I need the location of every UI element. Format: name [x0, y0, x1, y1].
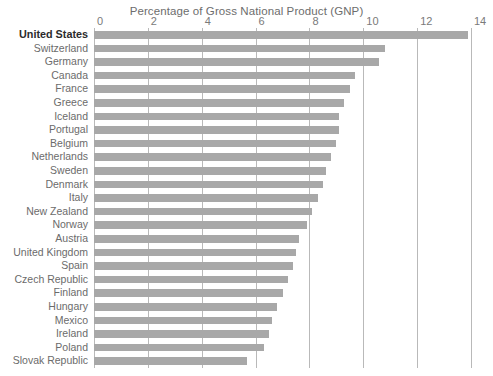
bar-france — [94, 85, 350, 93]
x-tick-label: 4 — [205, 16, 211, 27]
bar-row: Slovak Republic — [0, 354, 493, 368]
bar-row: Greece — [0, 96, 493, 110]
category-label-portugal: Portugal — [0, 123, 88, 137]
bar-poland — [94, 344, 264, 352]
bar-iceland — [94, 113, 339, 121]
bar-row: Belgium — [0, 137, 493, 151]
bar-new-zealand — [94, 208, 312, 216]
bar-row: Denmark — [0, 178, 493, 192]
bar-canada — [94, 72, 355, 80]
x-tick-label: 6 — [259, 16, 265, 27]
chart-title: Percentage of Gross National Product (GN… — [0, 5, 493, 17]
category-label-canada: Canada — [0, 69, 88, 83]
bar-denmark — [94, 181, 323, 189]
bar-netherlands — [94, 153, 331, 161]
bar-row: Poland — [0, 341, 493, 355]
bar-united-states — [94, 31, 468, 39]
bar-italy — [94, 194, 318, 202]
bar-row: Ireland — [0, 327, 493, 341]
bar-greece — [94, 99, 344, 107]
bar-switzerland — [94, 45, 385, 53]
category-label-united-kingdom: United Kingdom — [0, 246, 88, 260]
bar-row: Norway — [0, 218, 493, 232]
gnp-bar-chart: Percentage of Gross National Product (GN… — [0, 0, 493, 376]
bar-belgium — [94, 140, 336, 148]
bar-row: New Zealand — [0, 205, 493, 219]
bar-slovak-republic — [94, 357, 247, 365]
bar-finland — [94, 289, 283, 297]
x-tick-label: 8 — [312, 16, 318, 27]
bar-norway — [94, 221, 307, 229]
x-tick-label: 2 — [151, 16, 157, 27]
bar-row: Sweden — [0, 164, 493, 178]
bar-row: Czech Republic — [0, 273, 493, 287]
bar-portugal — [94, 126, 339, 134]
bar-row: United Kingdom — [0, 246, 493, 260]
category-label-germany: Germany — [0, 55, 88, 69]
category-label-spain: Spain — [0, 259, 88, 273]
category-label-mexico: Mexico — [0, 314, 88, 328]
bar-austria — [94, 235, 299, 243]
category-label-ireland: Ireland — [0, 327, 88, 341]
bar-row: Iceland — [0, 110, 493, 124]
category-label-norway: Norway — [0, 218, 88, 232]
bar-row: Austria — [0, 232, 493, 246]
bar-row: Switzerland — [0, 42, 493, 56]
category-label-finland: Finland — [0, 286, 88, 300]
category-label-united-states: United States — [0, 28, 88, 42]
x-tick-label: 0 — [97, 16, 103, 27]
category-label-slovak-republic: Slovak Republic — [0, 354, 88, 368]
bar-row: Netherlands — [0, 150, 493, 164]
bar-spain — [94, 262, 293, 270]
category-label-greece: Greece — [0, 96, 88, 110]
x-tick-label: 12 — [420, 16, 432, 27]
category-label-belgium: Belgium — [0, 137, 88, 151]
bar-rows: United StatesSwitzerlandGermanyCanadaFra… — [0, 28, 493, 368]
bar-mexico — [94, 317, 272, 325]
category-label-france: France — [0, 82, 88, 96]
category-label-hungary: Hungary — [0, 300, 88, 314]
category-label-poland: Poland — [0, 341, 88, 355]
bar-row: France — [0, 82, 493, 96]
category-label-italy: Italy — [0, 191, 88, 205]
x-tick-label: 10 — [366, 16, 378, 27]
bar-row: Hungary — [0, 300, 493, 314]
category-label-netherlands: Netherlands — [0, 150, 88, 164]
bar-row: Spain — [0, 259, 493, 273]
category-label-switzerland: Switzerland — [0, 42, 88, 56]
bar-row: Mexico — [0, 314, 493, 328]
category-label-denmark: Denmark — [0, 178, 88, 192]
bar-united-kingdom — [94, 249, 296, 257]
category-label-czech-republic: Czech Republic — [0, 273, 88, 287]
category-label-new-zealand: New Zealand — [0, 205, 88, 219]
bar-row: Portugal — [0, 123, 493, 137]
bar-germany — [94, 58, 379, 66]
bar-row: Finland — [0, 286, 493, 300]
bar-sweden — [94, 167, 326, 175]
category-label-iceland: Iceland — [0, 110, 88, 124]
x-tick-label: 14 — [474, 16, 486, 27]
bar-row: Germany — [0, 55, 493, 69]
bar-czech-republic — [94, 276, 288, 284]
bar-hungary — [94, 303, 277, 311]
bar-row: Italy — [0, 191, 493, 205]
bar-ireland — [94, 330, 269, 338]
category-label-austria: Austria — [0, 232, 88, 246]
category-label-sweden: Sweden — [0, 164, 88, 178]
bar-row: Canada — [0, 69, 493, 83]
bar-row: United States — [0, 28, 493, 42]
